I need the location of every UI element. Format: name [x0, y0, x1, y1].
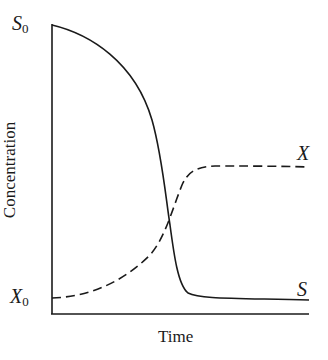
s0-label: S0	[12, 12, 29, 37]
s-curve	[52, 25, 309, 300]
s-end-label: S	[297, 278, 307, 301]
x0-label-sub: 0	[22, 294, 29, 309]
x0-label: X0	[10, 285, 29, 310]
x0-label-main: X	[10, 285, 22, 307]
x-end-label: X	[297, 142, 309, 165]
chart-plot	[0, 0, 328, 360]
s0-label-main: S	[12, 12, 22, 34]
s0-label-sub: 0	[22, 21, 29, 36]
x-axis-label: Time	[158, 327, 193, 347]
y-axis-label: Concentration	[0, 122, 20, 218]
